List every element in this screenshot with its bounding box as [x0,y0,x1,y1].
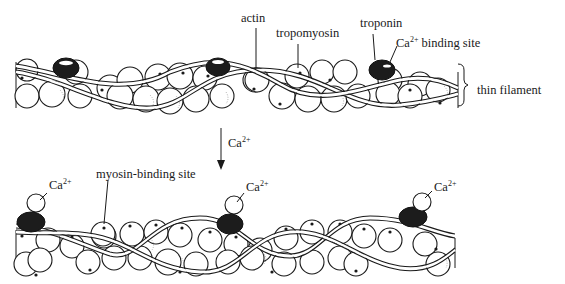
label-arrow-ca: Ca2+ [228,136,250,150]
label-ca-binding-site: Ca2+ binding site [396,36,480,50]
ca-ion-text: Ca [228,136,242,150]
ca-ion-text: Ca [434,180,448,194]
troponin-ca-1 [17,212,45,232]
calcium-addition-arrow [217,128,225,170]
ca-ion-text: Ca [246,180,260,194]
thin-filament-diagram [0,0,565,284]
thin-filament-bracket [458,64,468,106]
ca-ion-text: Ca [396,36,410,50]
label-myosin-binding-site: myosin-binding site [96,168,196,181]
ca-charge-text: 2+ [63,177,72,186]
label-ca-1: Ca2+ [49,178,71,192]
label-actin: actin [241,12,265,25]
ca-charge-text: 2+ [242,135,251,144]
ca-ion-2 [225,196,243,214]
ca-charge-text: 2+ [260,179,269,188]
label-ca-3: Ca2+ [434,180,456,194]
ca-ion-text: Ca [49,178,63,192]
bottom-thin-filament [14,180,455,277]
troponin-3 [369,60,395,80]
ca-ion-3 [413,193,431,211]
ca-ion-1 [27,194,45,212]
label-troponin: troponin [360,17,402,30]
label-ca-2: Ca2+ [246,180,268,194]
ca-charge-text: 2+ [448,179,457,188]
troponin-ca-2 [217,214,243,234]
label-thin-filament: thin filament [477,84,541,97]
binding-site-text: binding site [418,36,480,50]
label-tropomyosin: tropomyosin [276,27,339,40]
myosin-binding-site-leader [104,180,108,224]
